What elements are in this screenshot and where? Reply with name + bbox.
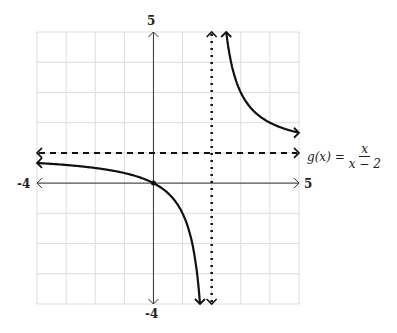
fraction: x x − 2	[349, 142, 381, 171]
y-min-label: -4	[145, 307, 158, 321]
numerator: x	[359, 142, 370, 157]
x-min-label: -4	[17, 177, 30, 191]
y-max-label: 5	[147, 14, 155, 28]
function-label: g(x) = x x − 2	[307, 142, 381, 171]
function-lhs: g(x) =	[307, 150, 345, 164]
denominator: x − 2	[349, 157, 381, 171]
x-max-label: 5	[304, 177, 312, 191]
